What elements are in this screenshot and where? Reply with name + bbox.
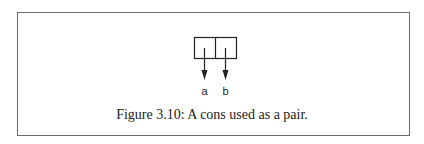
cons-cell xyxy=(195,38,237,59)
figure-caption: Figure 3.10: A cons used as a pair. xyxy=(0,107,424,123)
car-pointer-arrow xyxy=(202,48,208,80)
label-a: a xyxy=(201,85,208,97)
label-b: b xyxy=(222,85,228,97)
cdr-pointer-arrow xyxy=(223,48,229,80)
